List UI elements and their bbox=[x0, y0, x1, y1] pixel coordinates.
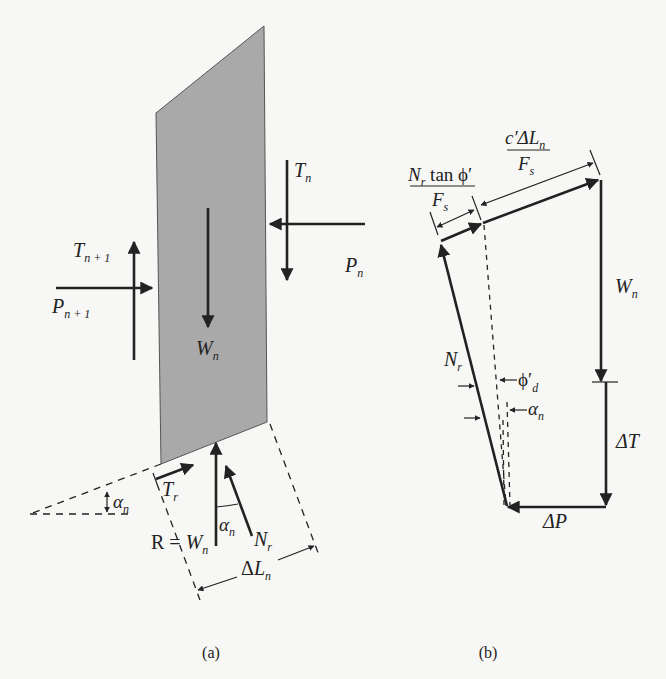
force-N-r-polygon bbox=[441, 245, 507, 506]
label-cohesion-fraction: c′ΔLn Fs bbox=[505, 127, 550, 178]
dim-tick-right bbox=[590, 150, 600, 175]
delta-L-arrow-left bbox=[198, 577, 237, 590]
force-cohesion-component bbox=[483, 180, 598, 223]
label-delta-P: ΔP bbox=[542, 510, 567, 532]
label-alpha-base: αn bbox=[113, 491, 129, 516]
slice-force-diagram: Tn Pn Tn + 1 Pn + 1 Wn αn Tr R = Wn αn N… bbox=[0, 0, 666, 679]
label-phi-d: ϕ′d bbox=[518, 369, 539, 395]
force-friction-component bbox=[441, 224, 481, 241]
friction-denominator: Fs bbox=[431, 189, 449, 214]
dim-tick-mid bbox=[472, 196, 481, 220]
cohesion-numerator: c′ΔLn bbox=[505, 127, 545, 152]
figure-b: Wn ΔT ΔP Nr ϕ′d αn Nr tan ϕ′ bbox=[407, 127, 641, 662]
label-N-r: Nr bbox=[253, 528, 272, 554]
caption-b: (b) bbox=[479, 644, 498, 662]
alpha-inner-arc bbox=[216, 504, 238, 507]
label-delta-T: ΔT bbox=[615, 430, 641, 452]
label-W-n-b: Wn bbox=[615, 275, 638, 301]
label-R-equals-W-n: R = Wn bbox=[151, 531, 208, 557]
label-delta-L-n: ΔLn bbox=[241, 557, 271, 583]
cohesion-denominator: Fs bbox=[517, 153, 535, 178]
label-T-n: Tn bbox=[294, 159, 311, 185]
label-friction-fraction: Nr tan ϕ′ Fs bbox=[407, 164, 475, 214]
delta-L-arrow-right bbox=[278, 546, 314, 560]
dimension-right-dashed bbox=[270, 424, 320, 558]
alpha-n-dashed bbox=[507, 402, 510, 505]
friction-numerator: Nr tan ϕ′ bbox=[407, 164, 472, 189]
label-alpha-inner: αn bbox=[219, 514, 235, 539]
caption-a: (a) bbox=[202, 644, 220, 662]
figure-a: Tn Pn Tn + 1 Pn + 1 Wn αn Tr R = Wn αn N… bbox=[30, 26, 365, 662]
soil-slice bbox=[156, 26, 267, 464]
label-T-n1: Tn + 1 bbox=[73, 239, 110, 265]
friction-dimension-arrow bbox=[437, 210, 474, 227]
label-T-r: Tr bbox=[162, 478, 178, 504]
label-N-r-b: Nr bbox=[443, 348, 462, 374]
label-P-n: Pn bbox=[344, 254, 363, 280]
label-P-n1: Pn + 1 bbox=[51, 295, 90, 321]
force-T-r-arrow bbox=[156, 465, 193, 479]
label-alpha-n-b: αn bbox=[528, 398, 544, 423]
base-extension-dashed bbox=[30, 464, 161, 514]
dim-tick-left bbox=[430, 212, 438, 235]
cohesion-dimension-arrow bbox=[481, 163, 593, 205]
